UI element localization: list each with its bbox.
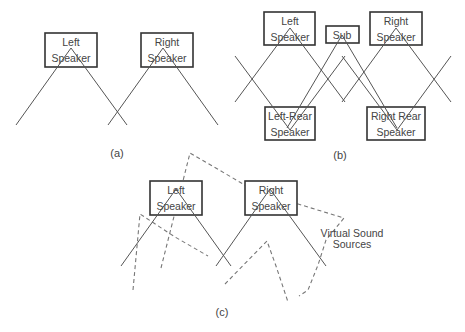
right-rear-speaker-label-1: Right Rear (371, 110, 422, 122)
left-rear-speaker-label-2: Speaker (270, 126, 310, 138)
virtual-source-path-left (133, 214, 208, 290)
left-speaker-label-2: Speaker (270, 31, 310, 43)
caption-c: (c) (216, 306, 229, 318)
right-speaker-label-2: Speaker (376, 31, 416, 43)
panel-a: Left Speaker Right Speaker (a) (16, 33, 218, 159)
left-speaker-label-1: Left (62, 36, 80, 48)
caption-a: (a) (110, 147, 123, 159)
left-speaker-label-2: Speaker (156, 200, 196, 212)
right-speaker-label-1: Right (155, 36, 180, 48)
left-speaker-label-1: Left (281, 15, 299, 27)
panel-c: Left Speaker Right Speaker Virtual Sound… (121, 153, 384, 318)
virtual-source-path-upper (161, 153, 344, 296)
virtual-source-path-lower (225, 241, 288, 302)
right-speaker-label-1: Right (384, 15, 409, 27)
right-rear-speaker-label-2: Speaker (376, 126, 416, 138)
panel-b: Left Speaker Sub Right Speaker Left-Rear… (235, 12, 451, 161)
virtual-sources-label-2: Sources (333, 238, 372, 250)
left-speaker-label-2: Speaker (51, 52, 91, 64)
speaker-diagram: Left Speaker Right Speaker (a) Left Spea… (0, 0, 465, 332)
left-speaker-label-1: Left (167, 184, 185, 196)
left-rear-speaker-label-1: Left-Rear (268, 110, 312, 122)
caption-b: (b) (333, 149, 346, 161)
